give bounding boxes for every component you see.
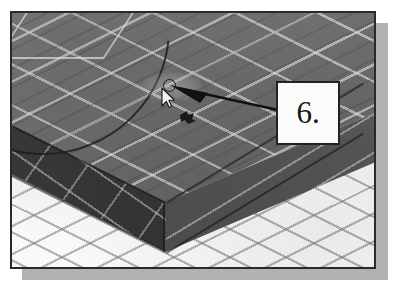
grip-drag-glyph-icon [179, 109, 197, 126]
callout-box: 6. [276, 81, 340, 145]
screenshot-frame: 6. [10, 11, 376, 269]
figure-root: 6. [0, 0, 394, 283]
slab-edge-front-vertical [164, 202, 166, 252]
callout-label: 6. [296, 97, 319, 130]
arrow-pointer-icon [160, 87, 176, 109]
